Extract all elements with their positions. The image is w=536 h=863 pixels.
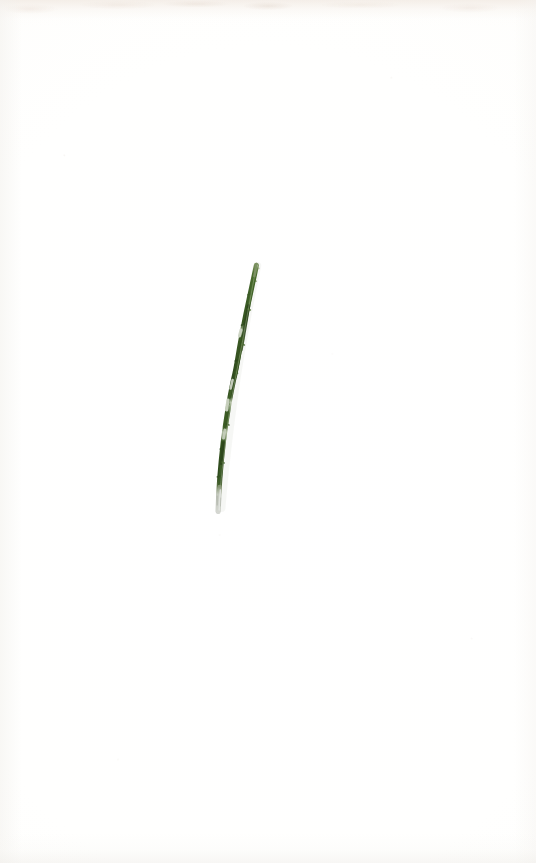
- specimen-cut-base: [217, 487, 221, 512]
- specimen-layer: [0, 0, 536, 863]
- specimen-shadow: [222, 266, 258, 508]
- specimen-sheet: [0, 0, 536, 863]
- pressed-plant-specimen: [0, 0, 536, 863]
